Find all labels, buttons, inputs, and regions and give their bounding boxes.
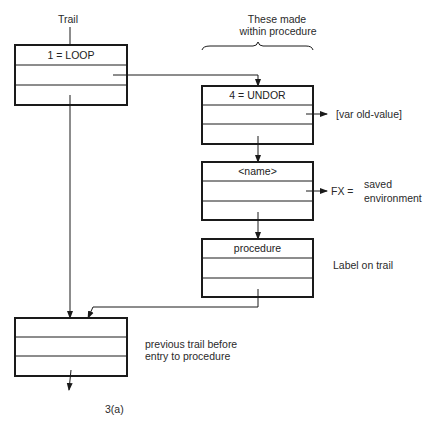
arrow-procedure-to-previous xyxy=(88,289,258,318)
header-line1: These made xyxy=(222,13,332,25)
environment-label: environment xyxy=(364,192,422,204)
previous-line1: previous trail before xyxy=(145,338,237,350)
figure-caption: 3(a) xyxy=(105,403,124,415)
label-on-trail: Label on trail xyxy=(333,259,393,271)
box-procedure-label: procedure xyxy=(202,242,313,254)
diagram-canvas xyxy=(0,0,439,426)
arrow-loop-to-undor xyxy=(113,75,258,86)
arrow-previous-out xyxy=(69,370,71,390)
header-line2: within procedure xyxy=(208,25,348,37)
box-undor-label: 4 = UNDOR xyxy=(202,89,313,101)
box-previous xyxy=(15,318,127,376)
box-name-label: <name> xyxy=(202,165,313,177)
box-loop-label: 1 = LOOP xyxy=(15,49,127,61)
previous-line2: entry to procedure xyxy=(145,350,230,362)
trail-label: Trail xyxy=(58,13,78,25)
var-old-value-label: [var old-value] xyxy=(336,108,402,120)
fx-label: FX = xyxy=(331,185,353,197)
brace-icon xyxy=(202,42,313,50)
saved-label: saved xyxy=(364,178,392,190)
